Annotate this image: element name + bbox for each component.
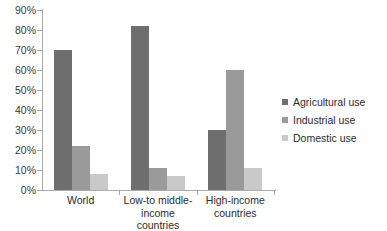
bar-industrial[interactable] [149, 168, 167, 190]
bar-agricultural[interactable] [54, 50, 72, 190]
y-axis-tick-label: 50% [2, 85, 36, 95]
bar-domestic[interactable] [90, 174, 108, 190]
x-axis-category-label-line: countries [197, 207, 274, 220]
legend-item[interactable]: Industrial use [282, 111, 385, 129]
y-axis-tick-label: 60% [2, 65, 36, 75]
bar-group [54, 10, 108, 190]
legend-label: Domestic use [293, 133, 357, 144]
bar-domestic[interactable] [167, 176, 185, 190]
y-axis-tick-label: 10% [2, 165, 36, 175]
y-axis-tick-label: 70% [2, 45, 36, 55]
x-axis-category-label: Low-to middle-income countries [119, 194, 196, 230]
y-axis-tick-label: 80% [2, 25, 36, 35]
bar-group [208, 10, 262, 190]
x-axis-line [42, 190, 276, 191]
x-axis-category-label-line: High-income [197, 194, 274, 207]
bar-agricultural[interactable] [208, 130, 226, 190]
bar-group [131, 10, 185, 190]
legend-item[interactable]: Domestic use [282, 129, 385, 147]
bar-agricultural[interactable] [131, 26, 149, 190]
bar-industrial[interactable] [72, 146, 90, 190]
bar-industrial[interactable] [226, 70, 244, 190]
legend-label: Industrial use [293, 115, 355, 126]
plot-area [42, 10, 274, 190]
x-axis-category-label: World [42, 194, 119, 207]
x-axis-category-label: High-incomecountries [197, 194, 274, 219]
legend-label: Agricultural use [293, 97, 365, 108]
legend-swatch-domestic [282, 135, 288, 141]
x-axis-category-label-line: Low-to middle- [119, 194, 196, 207]
y-axis-tick [37, 190, 42, 191]
bar-chart: 0%10%20%30%40%50%60%70%80%90% WorldLow-t… [0, 0, 387, 230]
x-axis-category-label-line: World [42, 194, 119, 207]
y-axis-tick-label: 30% [2, 125, 36, 135]
y-axis-tick-label: 40% [2, 105, 36, 115]
chart-legend: Agricultural useIndustrial useDomestic u… [282, 93, 385, 147]
y-axis-tick-label: 0% [2, 185, 36, 195]
x-axis-category-label-line: income countries [119, 207, 196, 231]
y-axis-tick-label: 20% [2, 145, 36, 155]
bar-domestic[interactable] [244, 168, 262, 190]
x-axis-label-group: WorldLow-to middle-income countriesHigh-… [42, 194, 276, 228]
legend-swatch-agricultural [282, 99, 288, 105]
legend-swatch-industrial [282, 117, 288, 123]
y-axis-tick-label: 90% [2, 5, 36, 15]
legend-item[interactable]: Agricultural use [282, 93, 385, 111]
